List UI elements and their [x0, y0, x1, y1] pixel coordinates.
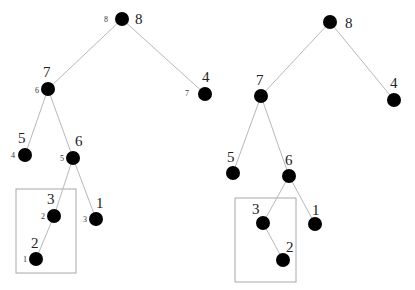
edge — [330, 22, 394, 100]
edge — [233, 96, 261, 173]
node-index: 2 — [41, 212, 45, 221]
node-index: 1 — [23, 255, 27, 264]
tree-node — [254, 89, 268, 103]
edge — [261, 22, 330, 96]
right-tree: 8 7 4 5 6 3 1 2 — [226, 15, 401, 282]
edge — [54, 158, 73, 216]
node-label: 1 — [96, 195, 104, 211]
tree-node — [198, 87, 212, 101]
tree-node — [41, 82, 55, 96]
tree-node — [282, 169, 296, 183]
tree-node — [18, 148, 32, 162]
tree-node — [47, 209, 61, 223]
node-label: 6 — [75, 133, 83, 149]
tree-node — [256, 216, 270, 230]
left-tree: 8 8 7 6 4 7 5 4 6 5 3 2 1 3 2 1 — [11, 11, 212, 273]
node-label: 8 — [345, 15, 353, 31]
node-index: 7 — [185, 89, 189, 98]
node-label: 2 — [31, 235, 39, 251]
tree-diagram: 8 8 7 6 4 7 5 4 6 5 3 2 1 3 2 1 8 7 — [0, 0, 415, 290]
node-label: 8 — [135, 11, 143, 27]
node-label: 7 — [256, 72, 264, 88]
edge — [48, 19, 122, 89]
node-label: 6 — [285, 152, 293, 168]
node-label: 1 — [312, 202, 320, 218]
tree-node — [226, 166, 240, 180]
edge — [122, 19, 205, 94]
tree-node — [115, 12, 129, 26]
node-index: 8 — [104, 15, 108, 24]
tree-node — [66, 151, 80, 165]
node-label: 2 — [286, 239, 294, 255]
tree-node — [29, 252, 43, 266]
node-label: 5 — [227, 149, 235, 165]
edge — [263, 176, 289, 223]
node-label: 5 — [18, 130, 26, 146]
edge — [48, 89, 73, 158]
node-label: 3 — [252, 201, 260, 217]
tree-node — [89, 212, 103, 226]
node-index: 3 — [83, 215, 87, 224]
tree-node — [323, 15, 337, 29]
tree-node — [276, 253, 290, 267]
node-index: 5 — [60, 154, 64, 163]
node-label: 4 — [202, 69, 210, 85]
node-index: 4 — [11, 151, 15, 160]
node-label: 4 — [390, 75, 398, 91]
tree-node — [308, 217, 322, 231]
node-label: 3 — [47, 191, 55, 207]
tree-node — [387, 93, 401, 107]
edge — [25, 89, 48, 155]
node-index: 6 — [35, 86, 39, 95]
node-label: 7 — [43, 64, 51, 80]
